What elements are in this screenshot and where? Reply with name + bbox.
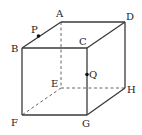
label-P: P <box>31 24 38 35</box>
edge-CD <box>87 22 125 48</box>
label-F: F <box>11 117 18 128</box>
label-G: G <box>82 118 90 129</box>
cube-diagram: A B C D E F G H P Q <box>0 0 142 135</box>
label-Q: Q <box>89 69 97 80</box>
label-H: H <box>127 84 136 95</box>
label-D: D <box>126 11 134 22</box>
edge-GH <box>87 88 125 115</box>
label-E: E <box>51 78 58 89</box>
label-C: C <box>79 36 87 47</box>
label-B: B <box>11 43 18 54</box>
label-A: A <box>55 8 64 19</box>
edge-EF <box>22 88 61 115</box>
edge-AB <box>22 22 61 48</box>
